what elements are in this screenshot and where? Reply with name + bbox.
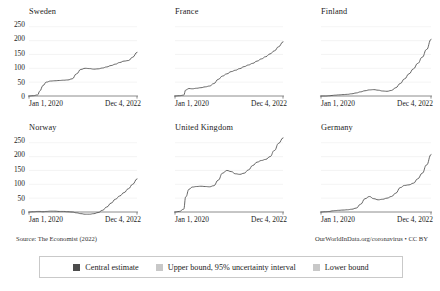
y-tick-label: 0: [21, 208, 25, 217]
y-tick-label: 50: [18, 77, 25, 86]
x-tick-label-start: Jan 1, 2020: [29, 99, 63, 108]
panel-united-kingdom: United Kingdom Jan 1, 2020 Dec 4, 2022: [146, 116, 292, 232]
panel-title: Sweden: [29, 7, 56, 16]
x-tick-label-start: Jan 1, 2020: [321, 215, 355, 224]
panel-france: France Jan 1, 2020 Dec 4, 2022: [146, 0, 292, 116]
source-note: Source: The Economist (2022): [16, 235, 97, 242]
square-swatch-icon: [313, 264, 320, 271]
y-tick-label: 100: [14, 63, 25, 72]
line-plot-svg: [29, 140, 137, 212]
line-plot-svg: [321, 140, 431, 212]
legend-label: Central estimate: [85, 263, 138, 272]
legend-item-lower-bound[interactable]: Lower bound: [313, 263, 369, 272]
footer: Source: The Economist (2022) OurWorldInD…: [0, 235, 440, 247]
x-tick-label-end: Dec 4, 2022: [105, 215, 141, 224]
x-tick-label-start: Jan 1, 2020: [29, 215, 63, 224]
y-tick-label: 250: [14, 20, 25, 29]
x-tick-label-start: Jan 1, 2020: [175, 215, 209, 224]
y-tick-label: 50: [18, 193, 25, 202]
plot-area: [321, 140, 431, 212]
legend-label: Upper bound, 95% uncertainty interval: [168, 263, 296, 272]
y-tick-label: 200: [14, 150, 25, 159]
legend-label: Lower bound: [325, 263, 369, 272]
panel-title: United Kingdom: [175, 123, 233, 132]
line-plot-svg: [321, 24, 431, 96]
x-tick-label-start: Jan 1, 2020: [321, 99, 355, 108]
plot-area: [175, 140, 283, 212]
panel-norway: Norway 250 200 150 100 50 0 Jan 1, 2020 …: [0, 116, 146, 232]
y-tick-label: 200: [14, 34, 25, 43]
legend-item-central[interactable]: Central estimate: [73, 263, 138, 272]
panel-finland: Finland Jan 1, 2020 Dec 4, 2022: [292, 0, 440, 116]
square-swatch-icon: [73, 264, 80, 271]
line-plot-svg: [175, 140, 283, 212]
legend-item-upper-bound[interactable]: Upper bound, 95% uncertainty interval: [156, 263, 296, 272]
y-tick-label: 250: [14, 136, 25, 145]
y-tick-label: 100: [14, 179, 25, 188]
x-tick-label-end: Dec 4, 2022: [397, 215, 433, 224]
y-axis-ticks: 250 200 150 100 50 0: [0, 140, 26, 212]
x-tick-label-end: Dec 4, 2022: [251, 99, 287, 108]
plot-area: [175, 24, 283, 96]
plot-area: [29, 24, 137, 96]
panel-title: Germany: [321, 123, 353, 132]
panel-grid: Sweden 250 200 150 100 50 0 Jan 1, 2020 …: [0, 0, 440, 232]
line-plot-svg: [29, 24, 137, 96]
panel-germany: Germany Jan 1, 2020 Dec 4, 2022: [292, 116, 440, 232]
panel-title: France: [175, 7, 198, 16]
x-tick-label-start: Jan 1, 2020: [175, 99, 209, 108]
x-tick-label-end: Dec 4, 2022: [397, 99, 433, 108]
x-tick-label-end: Dec 4, 2022: [105, 99, 141, 108]
legend: Central estimate Upper bound, 95% uncert…: [39, 256, 403, 278]
panel-sweden: Sweden 250 200 150 100 50 0 Jan 1, 2020 …: [0, 0, 146, 116]
attribution-note[interactable]: OurWorldInData.org/coronavirus • CC BY: [315, 235, 428, 242]
line-plot-svg: [175, 24, 283, 96]
y-tick-label: 0: [21, 92, 25, 101]
y-axis-ticks: 250 200 150 100 50 0: [0, 24, 26, 96]
y-tick-label: 150: [14, 164, 25, 173]
x-tick-label-end: Dec 4, 2022: [251, 215, 287, 224]
plot-area: [29, 140, 137, 212]
panel-title: Finland: [321, 7, 347, 16]
square-swatch-icon: [156, 264, 163, 271]
y-tick-label: 150: [14, 48, 25, 57]
plot-area: [321, 24, 431, 96]
small-multiples-chart: Sweden 250 200 150 100 50 0 Jan 1, 2020 …: [0, 0, 440, 291]
panel-title: Norway: [29, 123, 57, 132]
